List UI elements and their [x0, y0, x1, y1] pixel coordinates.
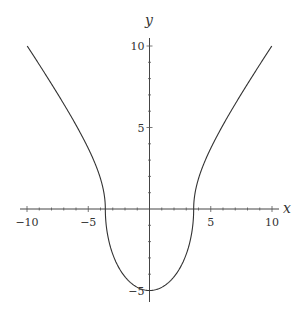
x-tick-label: 10 — [265, 216, 279, 229]
x-tick-label: −5 — [80, 216, 96, 229]
y-tick-label: 10 — [131, 40, 145, 53]
chart: −10−5510105−5 x y — [0, 0, 304, 316]
y-tick-label: 5 — [138, 122, 145, 135]
x-tick-label: 5 — [207, 216, 214, 229]
x-axis-label: x — [283, 200, 291, 216]
tick-labels: −10−5510105−5 — [15, 40, 279, 298]
x-tick-label: −10 — [15, 216, 38, 229]
axes — [20, 38, 279, 302]
y-axis-label: y — [144, 12, 154, 28]
